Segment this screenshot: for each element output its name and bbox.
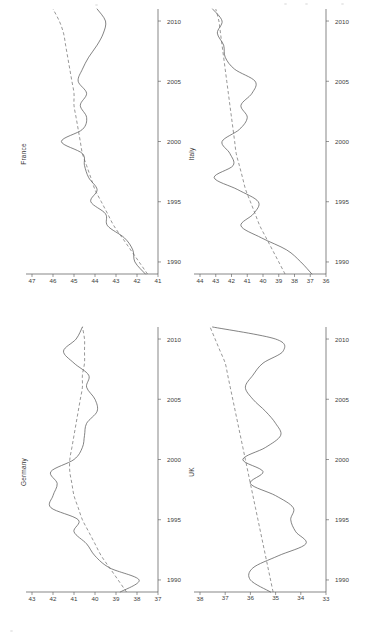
y-tick-label: 42 xyxy=(228,277,235,284)
y-tick-label: 41 xyxy=(244,277,251,284)
x-tick-label: 1995 xyxy=(167,198,181,205)
x-tick-label: 1995 xyxy=(167,516,181,523)
scan-speck xyxy=(341,3,344,5)
y-tick-label: 44 xyxy=(92,277,99,284)
plot-uk: 33343536373819901995200020052010 xyxy=(186,322,354,622)
series-trend xyxy=(210,327,273,592)
x-tick-label: 2005 xyxy=(335,396,349,403)
y-tick-label: 41 xyxy=(155,277,162,284)
series-trend xyxy=(53,9,148,274)
y-tick-label: 42 xyxy=(134,277,141,284)
x-tick-label: 1990 xyxy=(335,258,349,265)
x-tick-label: 2005 xyxy=(335,78,349,85)
series-trend xyxy=(216,9,285,274)
chart-panel-italy: Italy 3637383940414243441990199520002005… xyxy=(186,4,354,304)
y-tick-label: 43 xyxy=(29,595,36,602)
series-actual xyxy=(61,9,145,274)
chart-panel-uk: UK 33343536373819901995200020052010 xyxy=(186,322,354,622)
x-tick-label: 1990 xyxy=(335,576,349,583)
y-tick-label: 46 xyxy=(50,277,57,284)
figure-page: France 414243444546471990199520002005201… xyxy=(0,0,366,636)
scan-speck xyxy=(10,630,13,632)
x-tick-label: 2010 xyxy=(167,336,181,343)
plot-france: 4142434445464719901995200020052010 xyxy=(18,4,186,304)
plot-germany: 3738394041424319901995200020052010 xyxy=(18,322,186,622)
y-tick-label: 38 xyxy=(134,595,141,602)
y-tick-label: 39 xyxy=(113,595,120,602)
x-tick-label: 2000 xyxy=(167,138,181,145)
x-tick-label: 2005 xyxy=(167,78,181,85)
scan-speck xyxy=(305,3,308,5)
y-tick-label: 33 xyxy=(323,595,330,602)
y-tick-label: 39 xyxy=(275,277,282,284)
y-tick-label: 37 xyxy=(155,595,162,602)
x-tick-label: 2010 xyxy=(167,18,181,25)
scan-speck xyxy=(95,4,98,6)
x-tick-label: 2000 xyxy=(167,456,181,463)
y-tick-label: 38 xyxy=(291,277,298,284)
y-tick-label: 42 xyxy=(50,595,57,602)
x-tick-label: 1995 xyxy=(335,198,349,205)
x-tick-label: 2010 xyxy=(335,336,349,343)
y-tick-label: 34 xyxy=(297,595,304,602)
y-tick-label: 37 xyxy=(222,595,229,602)
y-tick-label: 36 xyxy=(323,277,330,284)
series-actual xyxy=(213,327,307,592)
y-tick-label: 44 xyxy=(197,277,204,284)
x-tick-label: 2005 xyxy=(167,396,181,403)
x-tick-label: 2010 xyxy=(335,18,349,25)
x-tick-label: 2000 xyxy=(335,138,349,145)
scan-speck xyxy=(284,3,287,5)
y-tick-label: 40 xyxy=(260,277,267,284)
y-tick-label: 47 xyxy=(29,277,36,284)
series-actual xyxy=(213,9,312,274)
y-tick-label: 43 xyxy=(113,277,120,284)
chart-panel-germany: Germany 37383940414243199019952000200520… xyxy=(18,322,186,622)
series-actual xyxy=(49,327,139,592)
y-tick-label: 37 xyxy=(307,277,314,284)
plot-italy: 36373839404142434419901995200020052010 xyxy=(186,4,354,304)
x-tick-label: 2000 xyxy=(335,456,349,463)
chart-panel-france: France 414243444546471990199520002005201… xyxy=(18,4,186,304)
x-tick-label: 1990 xyxy=(167,258,181,265)
y-tick-label: 43 xyxy=(212,277,219,284)
y-tick-label: 38 xyxy=(197,595,204,602)
y-tick-label: 35 xyxy=(272,595,279,602)
y-tick-label: 45 xyxy=(71,277,78,284)
y-tick-label: 41 xyxy=(71,595,78,602)
x-tick-label: 1990 xyxy=(167,576,181,583)
x-tick-label: 1995 xyxy=(335,516,349,523)
y-tick-label: 36 xyxy=(247,595,254,602)
y-tick-label: 40 xyxy=(92,595,99,602)
